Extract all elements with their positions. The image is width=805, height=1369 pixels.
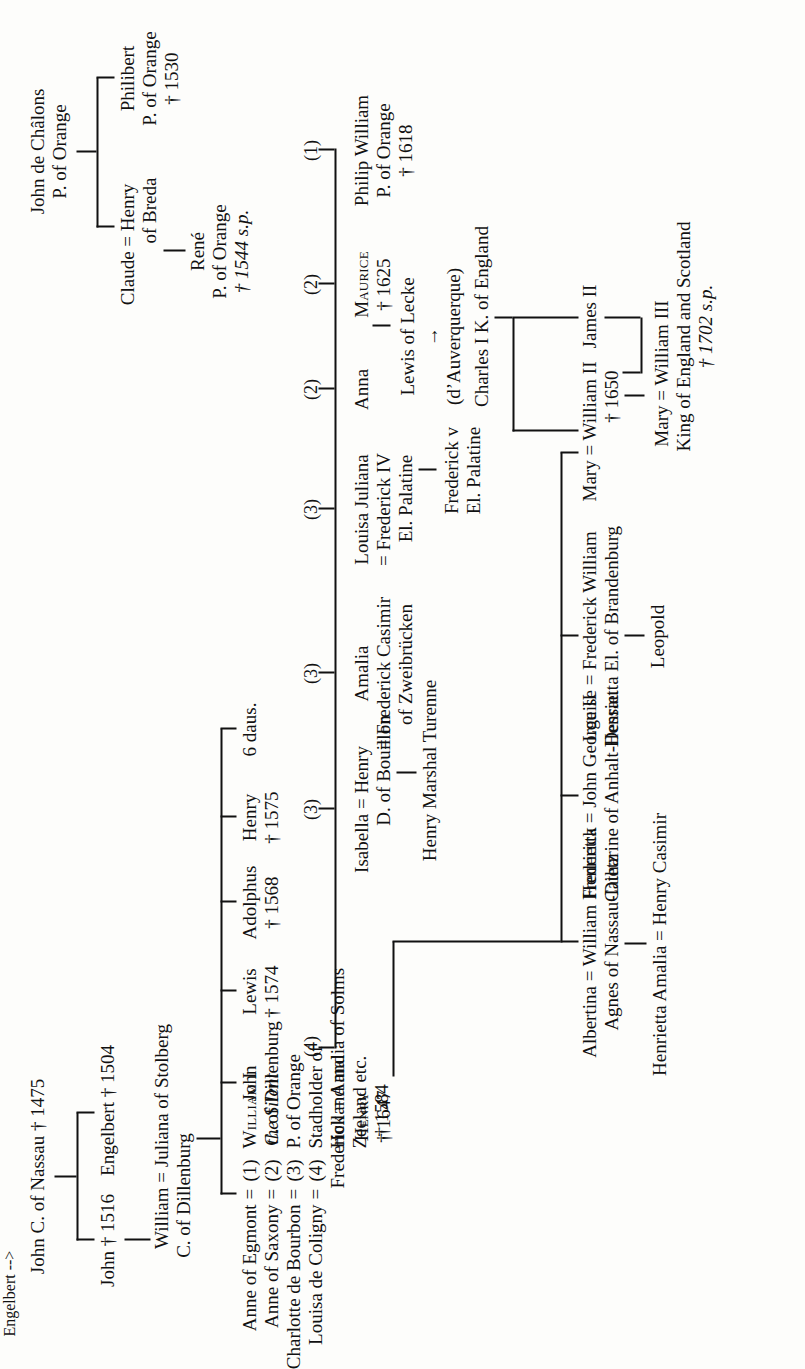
connector-v xyxy=(220,900,236,902)
node-william-juliana: William = Juliana of Stolberg xyxy=(150,1024,172,1249)
node-leopold: Leopold xyxy=(646,604,668,667)
node-wife-anne-of-egmont: Anne of Egmont xyxy=(238,1204,260,1331)
node-turenne: Henry Marshal Turenne xyxy=(418,679,440,861)
node-wife-anne-of-saxony: Anne of Saxony xyxy=(260,1204,282,1327)
connector-v xyxy=(220,727,236,729)
node-lewis-of-lecke: Lewis of Lecke xyxy=(396,277,418,395)
connector-h-children xyxy=(220,728,222,1194)
connector-v xyxy=(76,1238,94,1240)
node-james-ii: James II xyxy=(578,284,600,348)
node-william-the-silent-title-2: Stadholder of xyxy=(304,1045,326,1148)
marker-2: (2) xyxy=(300,274,321,295)
marriage-equals-2: = xyxy=(260,1188,282,1199)
connector-v xyxy=(96,225,114,227)
node-louisa-juliana-title: El. Palatine xyxy=(394,454,416,542)
connector-h xyxy=(512,317,514,431)
marker-1: (1) xyxy=(300,140,321,161)
marriage-equals-3: = xyxy=(282,1188,304,1199)
connector-v xyxy=(624,942,646,944)
connector-v xyxy=(318,807,334,809)
marker-5: (3) xyxy=(300,663,321,684)
connector-v xyxy=(560,940,578,942)
node-philip-william-name: Philip William xyxy=(350,94,372,205)
node-philibert-title: P. of Orange xyxy=(138,31,160,125)
connector-v xyxy=(624,634,644,636)
marriage-number-1: (1) xyxy=(238,1159,260,1181)
connector-v xyxy=(76,1111,94,1113)
node-maurice-name: Maurice xyxy=(350,251,372,318)
connector-v xyxy=(494,316,512,318)
node-amalia-house: of Zweibrücken xyxy=(394,604,416,725)
node-john-de-chalons-title: P. of Orange xyxy=(48,104,70,198)
node-nassau-dietz: Agnes of Nassau-Dietz xyxy=(600,854,622,1030)
connector-v xyxy=(512,316,578,318)
connector-h-fh-children xyxy=(560,452,562,942)
connector-v xyxy=(220,989,236,991)
connector-v xyxy=(560,794,578,796)
connector-v-fh-spine xyxy=(392,940,560,942)
node-claude-henry: Claude = Henry xyxy=(116,183,138,305)
connector-h xyxy=(96,77,98,227)
node-william-the-silent-title-1: P. of Orange xyxy=(282,1054,304,1148)
connector-v xyxy=(196,1137,220,1139)
node-charles-i: Charles I K. of England xyxy=(470,226,492,407)
marker-3: (2) xyxy=(300,379,321,400)
connector-v xyxy=(96,76,114,78)
node-mary-william-iii: Mary = William III xyxy=(650,300,672,446)
connector-v xyxy=(220,1081,236,1083)
node-henry-death: † 1575 xyxy=(260,791,282,843)
connector-v xyxy=(220,815,236,817)
node-philip-william-death: † 1618 xyxy=(394,124,416,176)
connector-h-fh-spine xyxy=(392,941,394,1076)
node-rene-title: P. of Orange xyxy=(208,204,230,298)
connector-v xyxy=(372,324,390,326)
connector-v xyxy=(54,1175,76,1177)
connector-v xyxy=(318,282,334,284)
marriage-number-3: (3) xyxy=(282,1159,304,1181)
node-lewis-name: Lewis xyxy=(238,968,260,1014)
node-philibert-name: Philibert xyxy=(116,45,138,110)
marker-4: (3) xyxy=(300,499,321,520)
marriage-number-4: (4) xyxy=(304,1159,326,1181)
node-john-dillenburg-name: John xyxy=(238,1065,260,1101)
node-john-de-chalons-name: John de Châlons xyxy=(26,88,48,214)
connector-v xyxy=(560,451,578,453)
node-isabella-henry: Isabella = Henry xyxy=(350,746,372,873)
connector-v xyxy=(624,394,644,396)
node-six-daughters: 6 daus. xyxy=(238,702,260,756)
marriage-number-2: (2) xyxy=(260,1159,282,1181)
node-john-dillenburg-title: C. of Dillenburg xyxy=(260,1021,282,1146)
marker-7: (4) xyxy=(300,1036,321,1057)
marriage-equals-1: = xyxy=(238,1188,260,1199)
connector-v xyxy=(560,634,578,636)
node-frederick-v-name: Frederick v xyxy=(440,426,462,513)
node-dauverquerque: (d’Auverquerque) xyxy=(442,267,464,404)
node-albertina-william-frederick: Albertina = William Frederick xyxy=(578,827,600,1058)
connector-v xyxy=(220,1192,236,1194)
node-claude-henry-sub: of Breda xyxy=(138,177,160,243)
connector-h xyxy=(640,317,642,373)
node-amalia-name: Amalia xyxy=(350,645,372,701)
node-engelbert: Engelbert † 1504 xyxy=(96,1045,118,1176)
node-frederick-amalia-solms: Frederick = Amalia of Solms xyxy=(326,967,348,1188)
node-mary-william-ii: Mary = William II xyxy=(578,361,600,501)
node-william-iii-title: King of England and Scotland xyxy=(672,221,694,451)
node-rene-death: † 1544 s.p. xyxy=(230,209,252,292)
node-william-ii-death: † 1650 xyxy=(600,370,622,422)
node-louisa-juliana-name: Louisa Juliana xyxy=(350,454,372,564)
node-wife-charlotte-de-bourbon: Charlotte de Bourbon xyxy=(282,1204,304,1369)
connector-v xyxy=(318,671,334,673)
node-rene-name: René xyxy=(186,231,208,270)
node-john-c-of-nassau: John C. of Nassau † 1475 xyxy=(26,1078,48,1273)
node-william-iii-death: † 1702 s.p. xyxy=(694,284,716,367)
node-john-1516: John † 1516 xyxy=(96,1194,118,1287)
connector-v xyxy=(163,249,185,251)
node-frederick-henry-death: † 1647 xyxy=(372,1090,394,1142)
node-anna: Anna xyxy=(350,368,372,409)
node-henrietta-amalia-henry-casimir: Henrietta Amalia = Henry Casimir xyxy=(648,813,670,1076)
node-henry-name: Henry xyxy=(238,793,260,840)
node-philip-william-title: P. of Orange xyxy=(372,103,394,197)
connector-v xyxy=(318,148,334,150)
